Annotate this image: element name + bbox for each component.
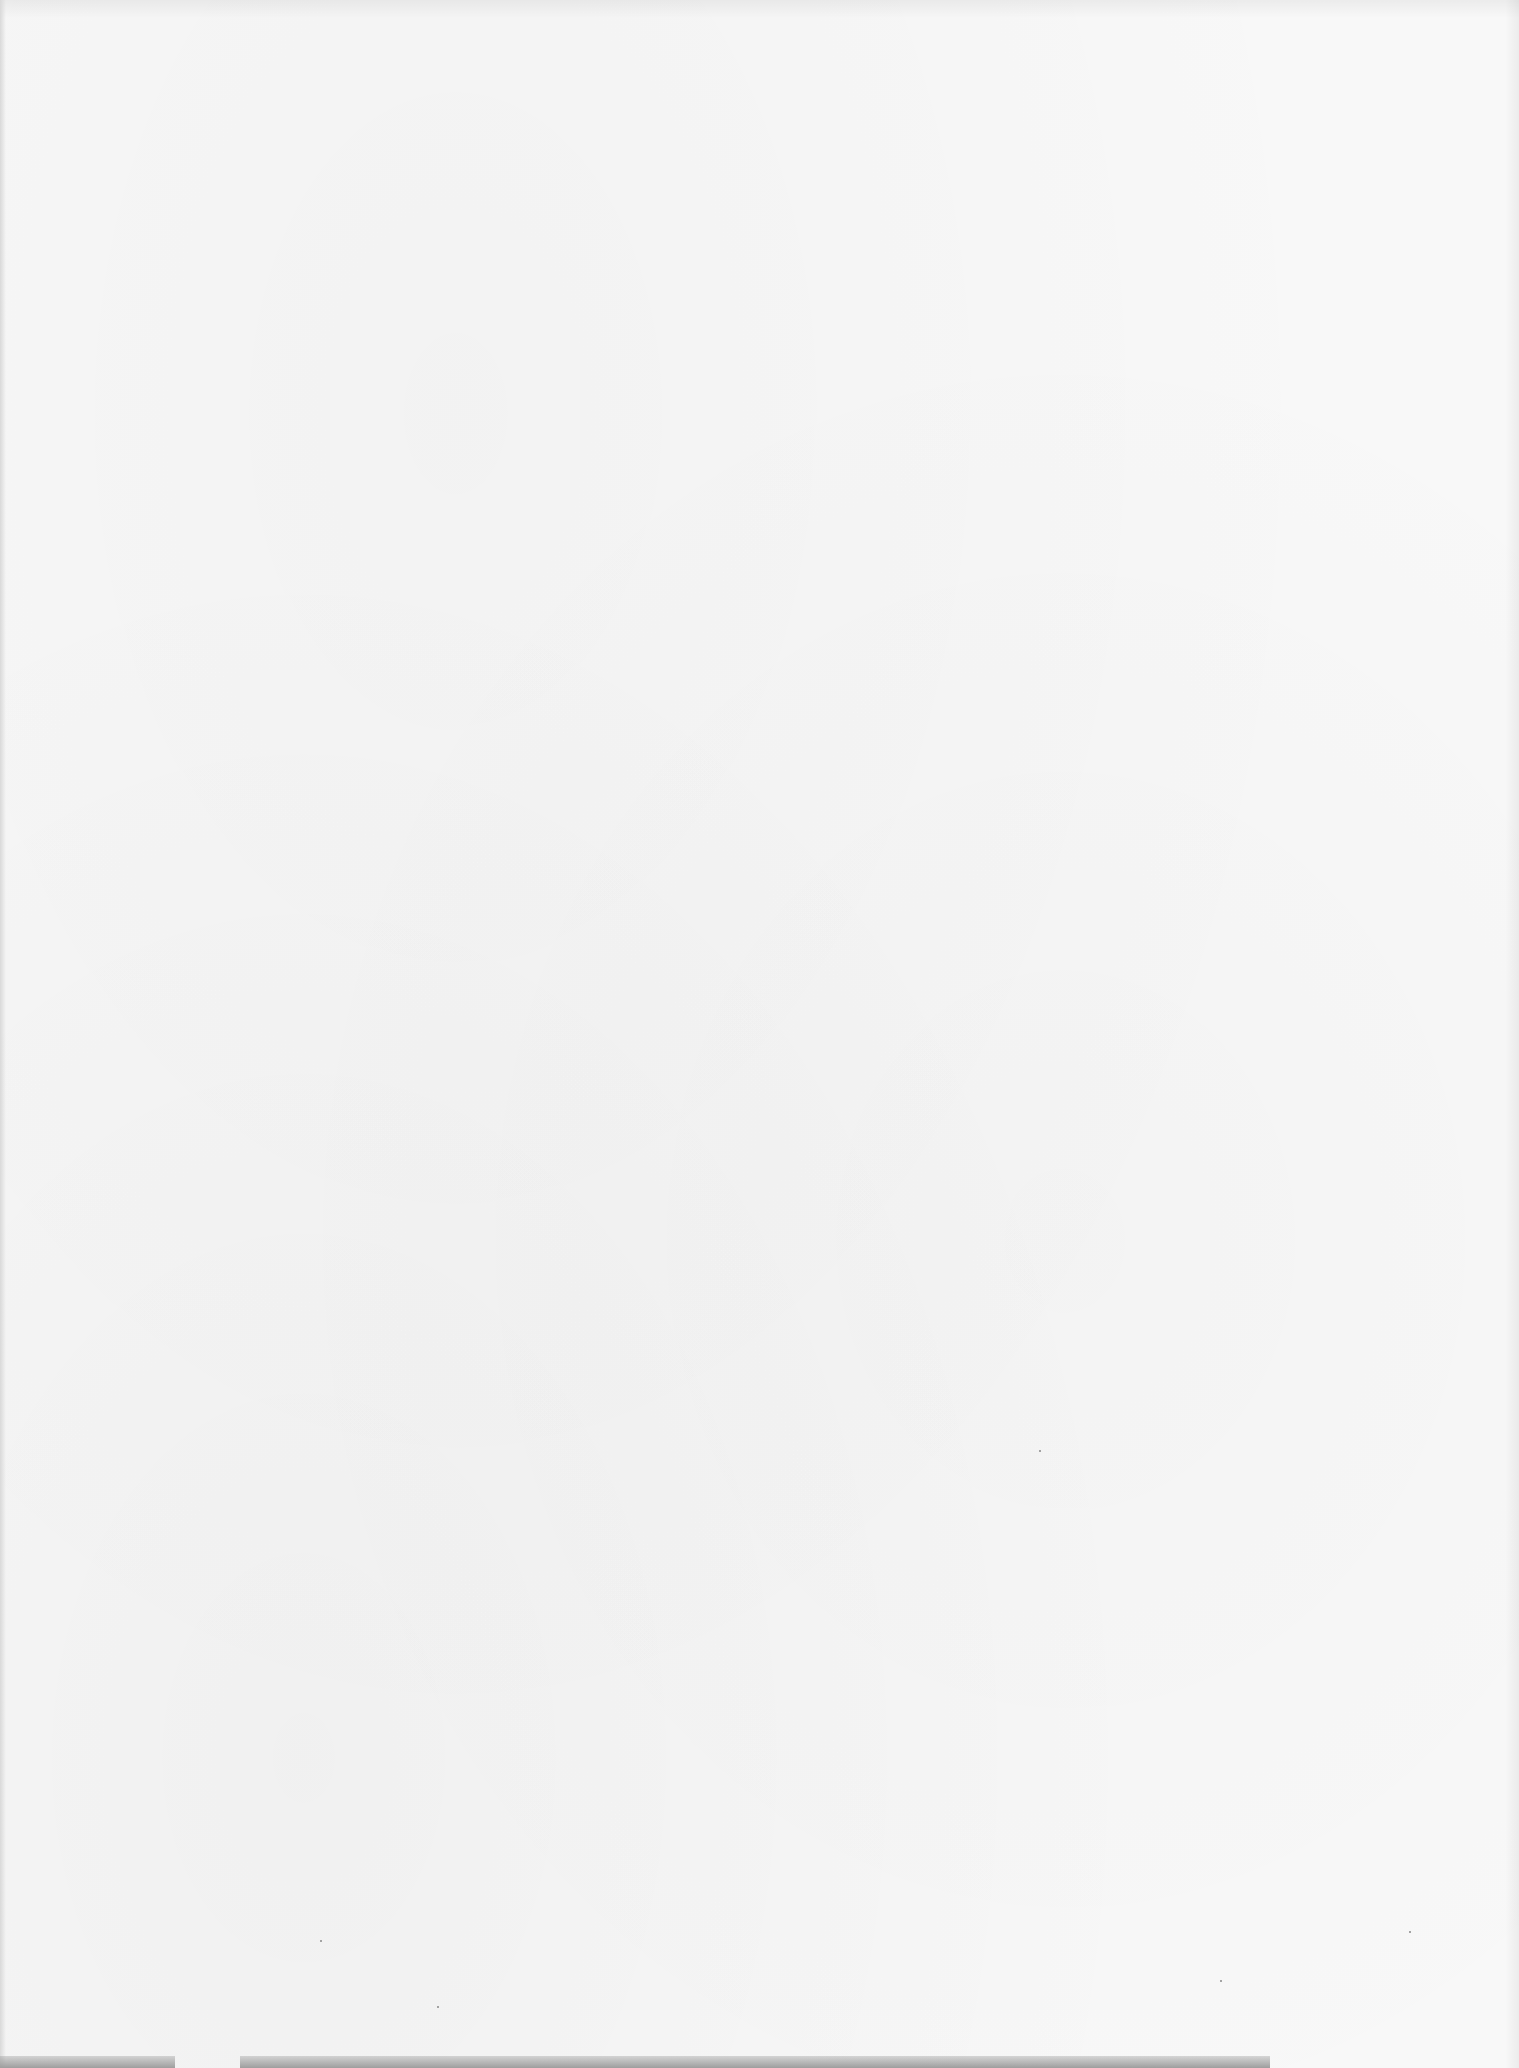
dust-speck — [320, 1940, 322, 1942]
blank-page — [0, 0, 1519, 2068]
dust-speck — [437, 2006, 439, 2008]
scan-right-edge-shadow — [1505, 0, 1519, 2068]
scan-top-edge-shadow — [0, 0, 1519, 18]
dust-speck — [1220, 1980, 1222, 1982]
dust-speck — [1409, 1931, 1411, 1933]
scan-left-edge-shadow — [0, 0, 6, 2068]
scan-bottom-edge-strip-left — [0, 2056, 175, 2068]
scan-bottom-edge-strip-main — [240, 2056, 1270, 2068]
dust-speck — [1039, 1450, 1041, 1452]
